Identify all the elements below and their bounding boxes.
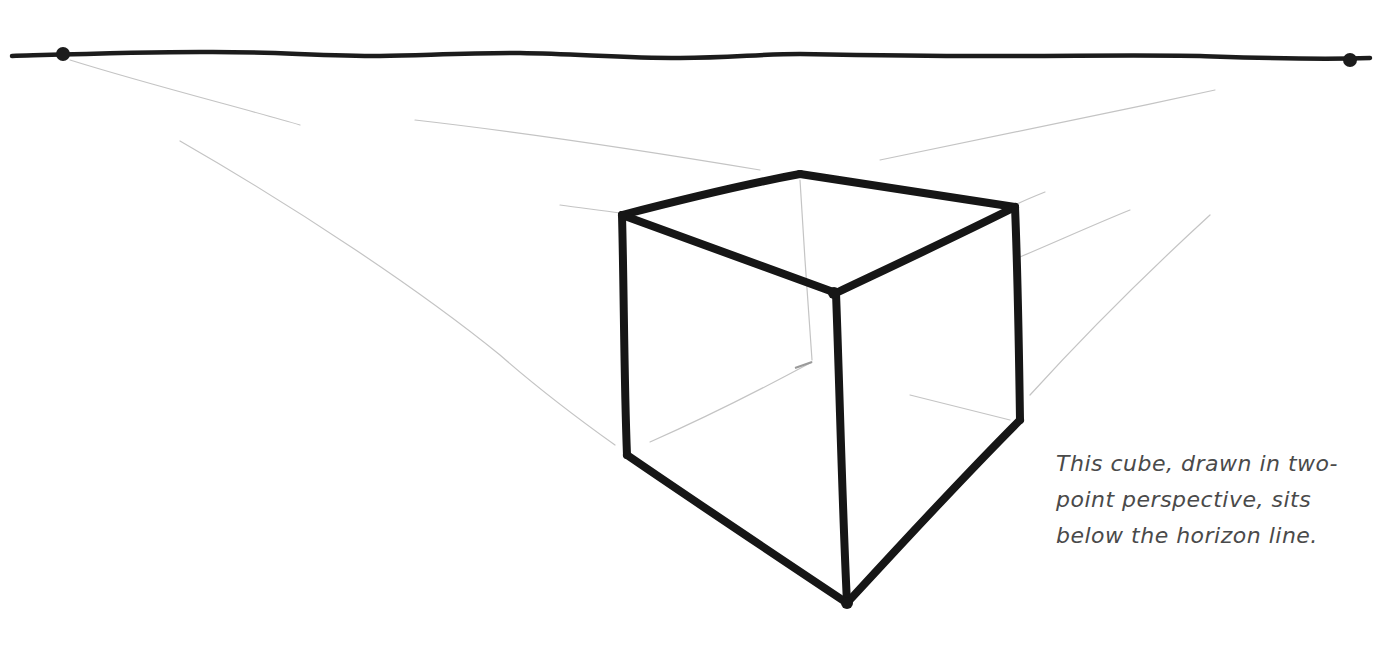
perspective-drawing	[0, 0, 1393, 656]
caption-line-1: This cube, drawn in two-	[1056, 446, 1376, 482]
caption-line-2: point perspective, sits	[1056, 482, 1376, 518]
construction-guides	[70, 60, 1215, 445]
guide-hidden-right-bottom	[910, 395, 1010, 420]
guide-right-bottom-to-vp	[1030, 215, 1210, 395]
cube-front-vertical-edge	[836, 293, 847, 603]
cube-top-back-left-edge	[622, 174, 800, 215]
guide-hidden-left-bottom	[650, 362, 812, 442]
guide-left-vp-to-bottom-left	[180, 141, 615, 445]
cube-bottom-corner-dot	[841, 597, 853, 609]
cube-top-front-left-edge	[622, 215, 836, 293]
caption-line-3: below the horizon line.	[1056, 518, 1376, 554]
guide-right-to-top-back	[880, 90, 1215, 160]
guide-top-right-extension	[1015, 192, 1045, 205]
caption: This cube, drawn in two- point perspecti…	[1056, 446, 1376, 554]
guide-hidden-vertical	[800, 180, 812, 360]
guide-left-vp-top	[70, 60, 300, 125]
cube-right-vertical-edge	[1015, 207, 1020, 420]
guide-right-side-mid	[1020, 210, 1130, 257]
cube-left-vertical-edge	[622, 215, 627, 455]
guide-top-left-extension	[560, 205, 620, 213]
cube	[622, 174, 1020, 603]
right-vanishing-point-icon	[1343, 53, 1357, 67]
horizon-line	[12, 52, 1370, 59]
cube-bottom-left-edge	[627, 455, 847, 603]
cube-front-top-corner-dot	[828, 287, 840, 299]
left-vanishing-point-icon	[56, 47, 70, 61]
guide-left-to-top-back	[415, 120, 760, 170]
cube-top-front-right-edge	[836, 207, 1015, 293]
cube-bottom-right-edge	[847, 420, 1020, 603]
cube-top-back-right-edge	[800, 174, 1015, 207]
